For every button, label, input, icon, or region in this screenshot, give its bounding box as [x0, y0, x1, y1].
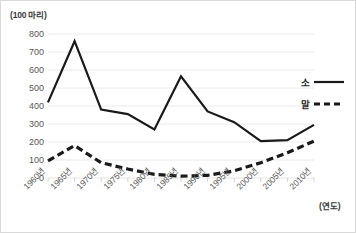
legend-item-말[interactable]: 말 — [301, 93, 356, 115]
x-axis-title: (연도) — [319, 199, 341, 211]
y-axis-tick-label: 600 — [4, 65, 44, 75]
y-axis-tick-label: 300 — [4, 119, 44, 129]
chart-legend: 소말 — [301, 71, 356, 115]
legend-item-label: 말 — [301, 97, 310, 111]
y-axis-unit-label: (100 마리) — [10, 8, 47, 20]
legend-item-소[interactable]: 소 — [301, 71, 356, 93]
legend-swatch-dashed — [314, 99, 344, 109]
y-axis-tick-label: 500 — [4, 83, 44, 93]
y-axis-tick-label: 800 — [4, 29, 44, 39]
y-axis-tick-label: 200 — [4, 137, 44, 147]
y-axis-tick-label: 400 — [4, 101, 44, 111]
chart-figure: (100 마리) 0100200300400500600700800 1960년… — [0, 0, 356, 233]
legend-item-label: 소 — [301, 75, 310, 89]
y-axis-tick-labels: 0100200300400500600700800 — [1, 34, 44, 178]
y-axis-tick-label: 700 — [4, 47, 44, 57]
series-line-소 — [48, 41, 314, 141]
plot-svg — [48, 34, 314, 178]
plot-area — [48, 34, 314, 178]
legend-swatch-solid — [314, 77, 344, 87]
x-axis-tick-labels: 1960년1965년1970년1975년1980년1985년1990년1995년… — [48, 179, 314, 233]
